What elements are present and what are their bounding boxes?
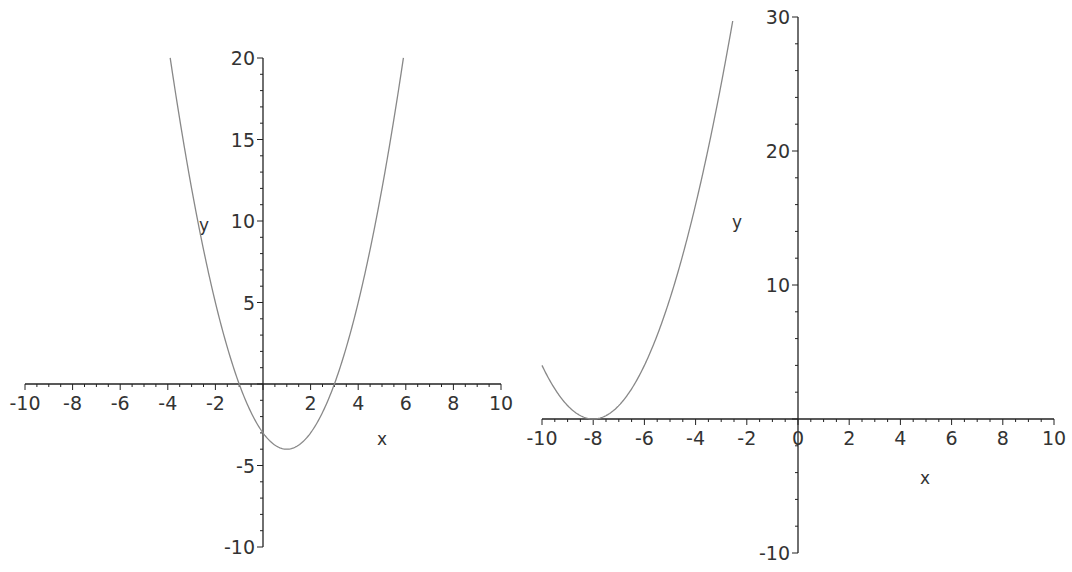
function-curve xyxy=(542,21,733,419)
y-tick-label: 15 xyxy=(231,129,255,151)
y-tick-label: 10 xyxy=(766,274,790,296)
x-tick-label: -4 xyxy=(686,427,705,449)
x-tick-label: 4 xyxy=(352,392,364,414)
y-tick-label: 20 xyxy=(231,47,255,69)
plots-canvas: -10-8-6-4-2246810-10-55101520xy-10-8-6-4… xyxy=(0,0,1072,572)
x-tick-label: -10 xyxy=(9,392,40,414)
x-axis-label: x xyxy=(920,468,930,488)
x-tick-label: 4 xyxy=(894,427,906,449)
y-tick-label: -5 xyxy=(236,455,255,477)
x-tick-label: -2 xyxy=(737,427,756,449)
x-tick-label: 2 xyxy=(843,427,855,449)
function-curve xyxy=(170,58,403,449)
x-tick-label: 10 xyxy=(489,392,513,414)
y-axis-label: y xyxy=(732,212,742,232)
x-tick-label: -10 xyxy=(526,427,557,449)
y-tick-label: -10 xyxy=(759,542,790,564)
plot-left: -10-8-6-4-2246810-10-55101520xy xyxy=(9,47,513,558)
x-tick-label: 6 xyxy=(946,427,958,449)
x-tick-label: 2 xyxy=(305,392,317,414)
x-tick-label: -4 xyxy=(158,392,177,414)
x-tick-label: 0 xyxy=(792,427,804,449)
x-tick-label: -6 xyxy=(111,392,130,414)
x-tick-label: 6 xyxy=(400,392,412,414)
x-tick-label: 8 xyxy=(997,427,1009,449)
x-tick-label: -6 xyxy=(635,427,654,449)
x-tick-label: 10 xyxy=(1042,427,1066,449)
y-tick-label: -10 xyxy=(224,536,255,558)
x-axis-label: x xyxy=(377,429,387,449)
y-tick-label: 10 xyxy=(231,210,255,232)
plot-right: -10-8-6-4-20246810-10102030xy xyxy=(526,6,1066,564)
y-tick-label: 30 xyxy=(766,6,790,28)
y-tick-label: 20 xyxy=(766,140,790,162)
x-tick-label: -8 xyxy=(584,427,603,449)
x-tick-label: 8 xyxy=(447,392,459,414)
y-tick-label: 5 xyxy=(243,292,255,314)
x-tick-label: -2 xyxy=(206,392,225,414)
x-tick-label: -8 xyxy=(63,392,82,414)
